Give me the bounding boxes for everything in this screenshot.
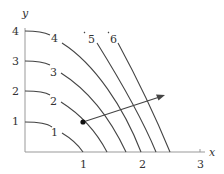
x-tick-label-1: 1: [80, 158, 87, 171]
point-marker: [80, 119, 85, 124]
contour-5: [84, 32, 156, 152]
contour-label-1: 1: [51, 126, 58, 139]
contour-3: [25, 61, 126, 152]
contour-4: [25, 31, 141, 152]
contour-label-5: 5: [88, 33, 95, 46]
contour-label-6: 6: [110, 33, 117, 46]
y-tick-4: 4: [12, 25, 19, 38]
y-tick-2: 2: [12, 85, 19, 98]
y-tick-3: 3: [12, 55, 19, 68]
x-tick-label-2: 2: [139, 158, 146, 171]
contour-label-4: 4: [51, 32, 58, 45]
y-tick-1: 1: [12, 115, 19, 128]
y-axis-label: y: [21, 7, 29, 20]
arrowhead-icon: [156, 95, 165, 101]
contour-diagram: y x 1 2 3 4 1 2 3 1 2 3 4 5 6: [0, 0, 224, 174]
contour-label-2: 2: [50, 95, 57, 108]
contour-2: [25, 91, 107, 152]
x-axis-label: x: [209, 146, 216, 159]
x-tick-label-3: 3: [197, 158, 204, 171]
contour-label-3: 3: [50, 66, 57, 79]
